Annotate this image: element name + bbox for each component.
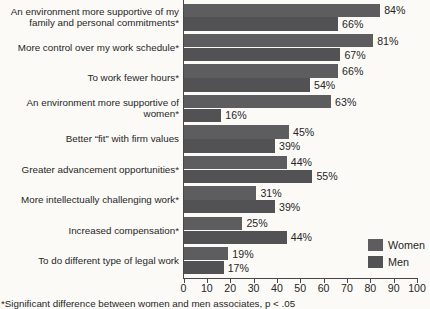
category-label: An environment more supportive ofwomen* bbox=[0, 95, 179, 122]
value-label: 84% bbox=[384, 4, 405, 17]
women-swatch bbox=[368, 239, 383, 251]
value-label: 16% bbox=[225, 109, 246, 122]
bar-women bbox=[184, 4, 380, 17]
value-label: 81% bbox=[377, 34, 398, 47]
value-label: 17% bbox=[228, 261, 249, 274]
value-label: 39% bbox=[279, 139, 300, 152]
bar-men bbox=[184, 261, 224, 274]
bar-men bbox=[184, 17, 338, 30]
legend: Women Men bbox=[368, 239, 425, 273]
bar-men bbox=[184, 170, 312, 183]
bar-women bbox=[184, 125, 289, 138]
legend-label-men: Men bbox=[388, 256, 409, 268]
category-label: To do different type of legal work bbox=[0, 247, 179, 274]
bar-men bbox=[184, 48, 340, 61]
bar-women bbox=[184, 186, 256, 199]
men-swatch bbox=[368, 256, 383, 268]
legend-item-men: Men bbox=[368, 256, 425, 268]
value-label: 19% bbox=[232, 247, 253, 260]
value-label: 44% bbox=[291, 156, 312, 169]
significance-footnote: *Significant difference between women an… bbox=[1, 298, 421, 309]
legend-label-women: Women bbox=[388, 239, 425, 251]
legend-item-women: Women bbox=[368, 239, 425, 251]
value-label: 66% bbox=[342, 64, 363, 77]
bar-women bbox=[184, 95, 331, 108]
bar-women bbox=[184, 217, 242, 230]
bar-men bbox=[184, 200, 275, 213]
category-label: To work fewer hours* bbox=[0, 64, 179, 91]
bar-women bbox=[184, 64, 338, 77]
category-label: Increased compensation* bbox=[0, 217, 179, 244]
value-label: 67% bbox=[344, 48, 365, 61]
value-label: 44% bbox=[291, 231, 312, 244]
y-axis-line bbox=[183, 0, 184, 279]
bar-women bbox=[184, 34, 373, 47]
value-label: 63% bbox=[335, 95, 356, 108]
value-label: 54% bbox=[314, 78, 335, 91]
category-label: An environment more supportive of myfami… bbox=[0, 4, 179, 31]
bar-men bbox=[184, 231, 287, 244]
value-label: 39% bbox=[279, 200, 300, 213]
category-label: Greater advancement opportunities* bbox=[0, 156, 179, 183]
x-axis-tick-label: 100 bbox=[402, 282, 430, 294]
bar-men bbox=[184, 139, 275, 152]
bar-women bbox=[184, 156, 287, 169]
value-label: 66% bbox=[342, 17, 363, 30]
bar-women bbox=[184, 247, 228, 260]
category-label: Better “fit” with firm values bbox=[0, 125, 179, 152]
value-label: 55% bbox=[316, 170, 337, 183]
bar-men bbox=[184, 78, 310, 91]
category-label: More control over my work schedule* bbox=[0, 34, 179, 61]
category-label: More intellectually challenging work* bbox=[0, 186, 179, 213]
bar-men bbox=[184, 109, 221, 122]
value-label: 45% bbox=[293, 125, 314, 138]
value-label: 25% bbox=[246, 217, 267, 230]
value-label: 31% bbox=[260, 186, 281, 199]
